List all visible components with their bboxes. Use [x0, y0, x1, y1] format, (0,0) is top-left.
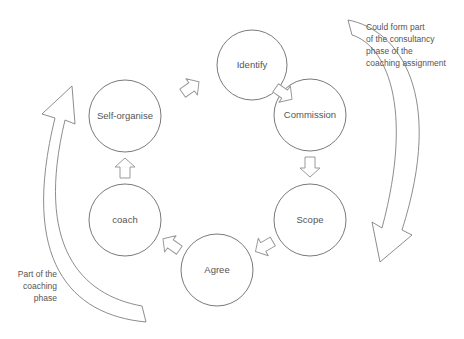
- node-label: Commission: [284, 109, 336, 120]
- node-label: coach: [112, 214, 137, 225]
- note-line: coaching: [23, 281, 57, 291]
- node-coach: coach: [89, 184, 161, 256]
- arrow-scope-to-agree-icon: [250, 233, 277, 260]
- consultancy-phase-curved-arrow: [348, 20, 419, 262]
- arrow-coach-to-self-organise-icon: [115, 158, 135, 178]
- note-line: coaching assignment: [366, 58, 446, 68]
- node-label: Agree: [204, 264, 229, 275]
- coaching-phase-note: Part of the coaching phase: [18, 269, 57, 303]
- note-line: of the consultancy: [366, 34, 435, 44]
- note-line: Part of the: [18, 269, 57, 279]
- node-agree: Agree: [181, 234, 253, 306]
- node-label: Scope: [297, 214, 324, 225]
- cycle-diagram: Identify Commission Scope Agree coach Se…: [0, 0, 464, 339]
- node-label: Identify: [237, 59, 268, 70]
- arrow-self-organise-to-identify-icon: [177, 73, 205, 101]
- node-scope: Scope: [274, 184, 346, 256]
- note-line: Could form part: [366, 22, 425, 32]
- node-label: Self-organise: [97, 110, 153, 121]
- arrow-agree-to-coach-icon: [157, 230, 185, 258]
- arrow-commission-to-scope-icon: [300, 157, 320, 177]
- node-self-organise: Self-organise: [89, 80, 161, 152]
- note-line: phase of the: [366, 46, 413, 56]
- note-line: phase: [34, 293, 57, 303]
